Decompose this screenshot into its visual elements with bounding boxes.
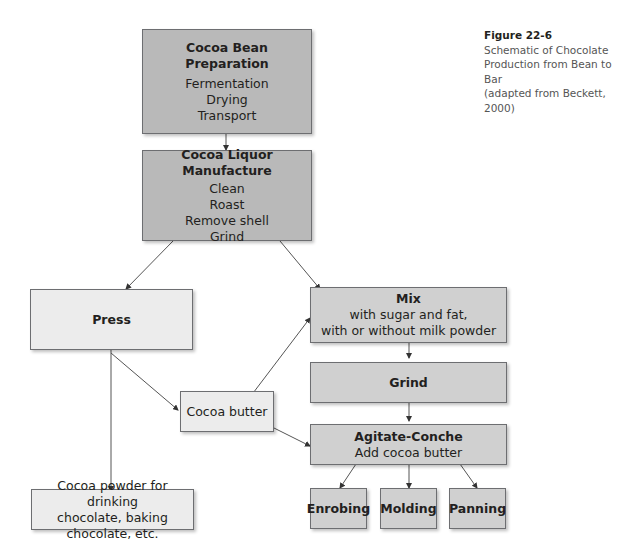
node-panning: Panning [449, 488, 506, 529]
node-line: with sugar and fat, [349, 307, 467, 323]
node-title: Press [92, 312, 131, 328]
caption-line: Production from Bean to Bar [484, 57, 632, 86]
figure-caption: Figure 22-6 Schematic of Chocolate Produ… [484, 28, 632, 115]
node-title: Panning [449, 501, 506, 517]
node-line: Grind [210, 229, 244, 245]
figure-label: Figure 22-6 [484, 28, 632, 43]
node-title: Enrobing [307, 501, 370, 517]
node-cocoa-butter: Cocoa butter [180, 391, 274, 432]
node-title: Agitate-Conche [354, 429, 462, 445]
node-line: chocolate, baking chocolate, etc. [32, 510, 193, 542]
node-agitate-conche: Agitate-Conche Add cocoa butter [310, 424, 507, 465]
node-enrobing: Enrobing [310, 488, 367, 529]
node-press: Press [30, 289, 193, 350]
caption-line: (adapted from Beckett, 2000) [484, 86, 632, 115]
node-line: with or without milk powder [321, 323, 496, 339]
node-line: Clean [209, 181, 244, 197]
node-line: Remove shell [185, 213, 269, 229]
node-line: Drying [206, 92, 248, 108]
node-mix: Mix with sugar and fat, with or without … [310, 287, 507, 343]
node-title: Molding [380, 501, 436, 517]
node-line: Transport [198, 108, 257, 124]
node-cocoa-bean-preparation: Cocoa Bean Preparation Fermentation Dryi… [142, 29, 312, 134]
node-title: Mix [396, 291, 421, 307]
node-line: Add cocoa butter [355, 445, 462, 461]
node-line: Fermentation [185, 76, 268, 92]
node-title: Cocoa Bean Preparation [143, 40, 311, 72]
node-cocoa-liquor-manufacture: Cocoa Liquor Manufacture Clean Roast Rem… [142, 150, 312, 241]
node-title: Cocoa Liquor Manufacture [143, 147, 311, 179]
caption-line: Schematic of Chocolate [484, 43, 632, 58]
node-line: Roast [210, 197, 245, 213]
node-line: Cocoa powder for drinking [32, 478, 193, 510]
node-cocoa-powder: Cocoa powder for drinking chocolate, bak… [31, 489, 194, 530]
node-title: Grind [389, 375, 428, 391]
node-grind: Grind [310, 362, 507, 403]
node-label: Cocoa butter [186, 404, 267, 420]
node-molding: Molding [380, 488, 437, 529]
